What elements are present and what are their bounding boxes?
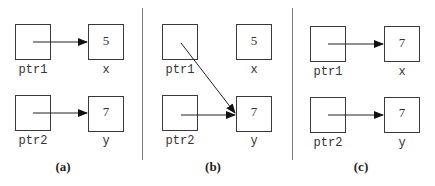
pointer-arrows: [0, 0, 435, 186]
pointer-diagram: ptr1 5 x ptr2 7 y (a) ptr1 5 x ptr2 7 y …: [0, 0, 435, 186]
arrow-ptr1-to-y: [181, 43, 235, 113]
